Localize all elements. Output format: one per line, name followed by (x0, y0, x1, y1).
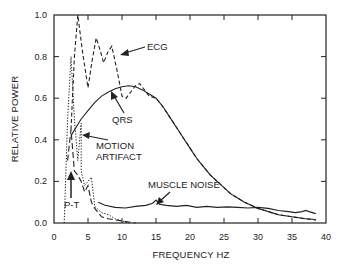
y-axis-label: RELATIVE POWER (9, 76, 20, 163)
qrs-arrow-icon (114, 96, 124, 113)
y-tick-label: 0.6 (34, 93, 47, 103)
x-tick-label: 0 (51, 232, 56, 242)
muscle-noise-curve (98, 200, 316, 214)
motion-arrowhead-icon (82, 132, 90, 139)
x-tick-label: 40 (321, 232, 331, 242)
x-tick-label: 5 (85, 232, 90, 242)
x-axis-label: FREQUENCY HZ (152, 249, 229, 260)
y-tick-label: 0.8 (34, 52, 47, 62)
x-tick-label: 25 (219, 232, 229, 242)
y-tick-label: 0.0 (34, 218, 47, 228)
x-tick-label: 15 (151, 232, 161, 242)
ecg-arrowhead-icon (120, 49, 129, 56)
y-axis-ticks: 0.00.20.40.60.81.0 (34, 10, 326, 228)
relative-power-chart: 0510152025303540 0.00.20.40.60.81.0 FREQ… (0, 0, 338, 266)
x-tick-label: 10 (117, 232, 127, 242)
x-axis-ticks: 0510152025303540 (51, 15, 331, 242)
y-tick-label: 0.4 (34, 135, 47, 145)
qrs-arrowhead-icon (111, 91, 118, 100)
x-tick-label: 20 (185, 232, 195, 242)
annotations: ECG QRS MOTION ARTIFACT MUSCLE NOISE P-T (64, 41, 220, 210)
qrs-label: QRS (112, 114, 133, 125)
x-tick-label: 30 (253, 232, 263, 242)
p-t-label: P-T (64, 199, 80, 210)
ecg-label: ECG (147, 41, 168, 52)
p-t-arrowhead-icon (67, 171, 75, 180)
motion-artifact-label-line2: ARTIFACT (96, 151, 142, 162)
muscle-noise-label: MUSCLE NOISE (148, 179, 220, 190)
x-tick-label: 35 (287, 232, 297, 242)
y-tick-label: 1.0 (34, 10, 47, 20)
motion-artifact-label-line1: MOTION (96, 140, 134, 151)
series-group (64, 15, 316, 223)
y-tick-label: 0.2 (34, 176, 47, 186)
